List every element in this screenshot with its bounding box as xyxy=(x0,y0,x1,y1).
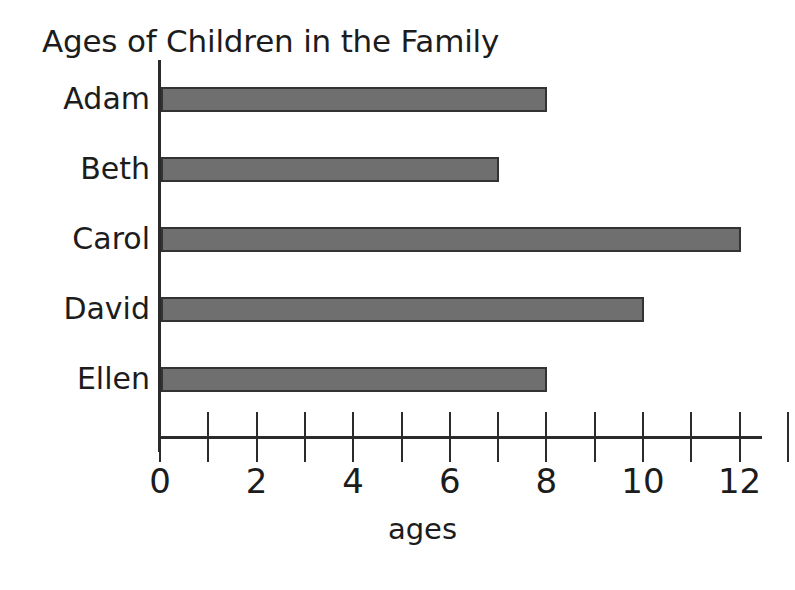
x-tick-label-6: 6 xyxy=(439,462,461,500)
x-tick-4 xyxy=(352,412,354,462)
category-axis-line xyxy=(158,436,762,439)
x-axis-title-text: ages xyxy=(388,512,457,546)
x-tick-10 xyxy=(642,412,644,462)
bar-ellen xyxy=(161,367,547,392)
plot-area: AdamBethCarolDavidEllen xyxy=(0,0,795,590)
category-label-beth: Beth xyxy=(80,154,150,184)
x-tick-label-8: 8 xyxy=(536,462,558,500)
x-tick-9 xyxy=(594,412,596,462)
x-tick-3 xyxy=(304,412,306,462)
x-tick-label-4: 4 xyxy=(342,462,364,500)
bar-david xyxy=(161,297,644,322)
x-tick-11 xyxy=(690,412,692,462)
x-axis-title: ages xyxy=(0,512,795,546)
x-tick-2 xyxy=(256,412,258,462)
category-label-carol: Carol xyxy=(72,224,150,254)
x-tick-6 xyxy=(449,412,451,462)
x-tick-label-12: 12 xyxy=(718,462,761,500)
bar-carol xyxy=(161,227,741,252)
x-tick-12 xyxy=(739,412,741,462)
x-tick-8 xyxy=(545,412,547,462)
bar-adam xyxy=(161,87,547,112)
bar-beth xyxy=(161,157,499,182)
x-tick-7 xyxy=(497,412,499,462)
x-tick-5 xyxy=(401,412,403,462)
x-tick-1 xyxy=(207,412,209,462)
x-tick-label-0: 0 xyxy=(149,462,171,500)
bar-chart: Ages of Children in the Family AdamBethC… xyxy=(0,0,795,590)
category-label-adam: Adam xyxy=(63,84,150,114)
category-label-david: David xyxy=(63,294,150,324)
x-tick-label-2: 2 xyxy=(246,462,268,500)
value-axis-line xyxy=(158,60,161,452)
x-tick-0 xyxy=(159,412,161,462)
x-tick-label-10: 10 xyxy=(621,462,664,500)
x-tick-13 xyxy=(787,412,789,462)
category-label-ellen: Ellen xyxy=(77,364,150,394)
